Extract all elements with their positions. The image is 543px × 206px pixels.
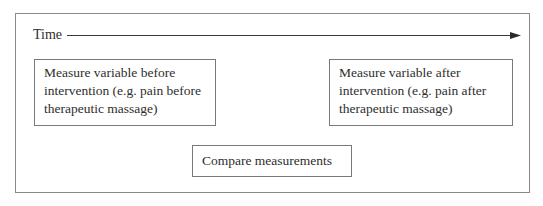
box-line: therapeutic massage) [339,100,503,118]
box-line: intervention (e.g. pain after [339,82,503,100]
time-arrow-head [510,32,521,39]
compare-measurements-box: Compare measurements [192,145,352,177]
measure-after-box: Measure variable after intervention (e.g… [329,59,513,126]
measure-before-box: Measure variable before intervention (e.… [34,59,216,126]
box-line: Measure variable before [44,64,206,82]
box-line: Compare measurements [202,152,342,170]
box-line: intervention (e.g. pain before [44,82,206,100]
box-line: therapeutic massage) [44,100,206,118]
box-line: Measure variable after [339,64,503,82]
